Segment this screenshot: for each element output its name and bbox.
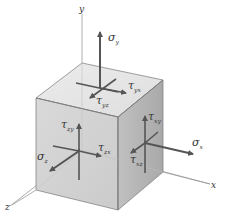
sigma-x-label: σx	[192, 136, 204, 150]
sigma-y-label: σy	[108, 31, 120, 46]
x-axis-outer	[163, 172, 210, 184]
stress-element-diagram: y x z σy τyx τyz τzy τzx σz τxy τxz σx	[0, 0, 227, 219]
x-axis-label: x	[211, 180, 216, 190]
y-axis-label: y	[78, 4, 85, 14]
z-axis-label: z	[4, 202, 10, 212]
z-axis-outer	[12, 190, 36, 205]
